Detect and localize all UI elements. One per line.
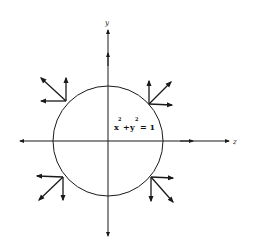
arrow-left-icon [37, 176, 63, 177]
svg-text:= 1: = 1 [140, 122, 155, 132]
svg-text:2: 2 [135, 116, 139, 122]
arrow-up-left-icon [41, 78, 66, 101]
svg-text:2: 2 [118, 116, 122, 122]
arrow-right-icon [151, 177, 173, 178]
x-axis-label: z [232, 138, 237, 146]
arrow-down-right-icon [151, 177, 173, 202]
svg-text:+: + [123, 122, 130, 132]
vector-triad-lower-left [37, 176, 63, 200]
unit-circle-diagram: z y x 2 + y 2 = 1 [0, 0, 253, 249]
vector-triad-lower-right [151, 177, 173, 202]
vector-triad-upper-left [41, 78, 66, 101]
y-axis-label: y [104, 19, 110, 27]
circle-equation: x 2 + y 2 = 1 [114, 116, 155, 132]
svg-text:y: y [129, 122, 135, 132]
arrow-down-left-icon [39, 177, 63, 200]
arrow-right-icon [149, 104, 172, 105]
arrow-up-right-icon [149, 82, 171, 104]
svg-text:x: x [114, 122, 119, 132]
vector-triad-upper-right [149, 81, 172, 105]
